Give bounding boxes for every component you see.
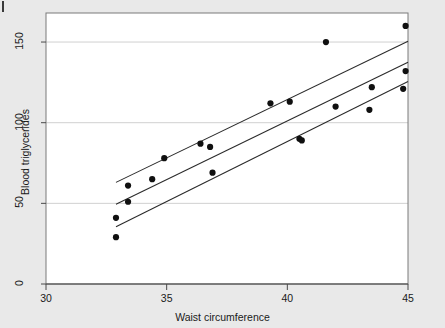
data-point-16 (369, 84, 375, 90)
data-point-15 (366, 107, 372, 113)
data-point-18 (402, 68, 408, 74)
x-tick-label-35: 35 (147, 292, 187, 304)
data-point-4 (149, 176, 155, 182)
x-tick-label-45: 45 (388, 292, 428, 304)
x-axis-title: Waist circumference (0, 311, 445, 323)
data-point-19 (402, 23, 408, 29)
data-point-5 (161, 155, 167, 161)
data-point-8 (209, 170, 215, 176)
y-axis-title: Blood triglycerides (19, 102, 31, 202)
data-point-12 (299, 137, 305, 143)
data-point-14 (333, 103, 339, 109)
data-point-9 (267, 100, 273, 106)
data-point-0 (113, 234, 119, 240)
data-point-2 (125, 199, 131, 205)
data-point-7 (207, 144, 213, 150)
data-point-17 (400, 86, 406, 92)
data-point-13 (323, 39, 329, 45)
plot-area-background (46, 13, 408, 284)
data-point-10 (287, 99, 293, 105)
data-point-3 (125, 183, 131, 189)
scatter-plot-figure: 0 50 100 150 30 35 40 45 Blood triglycer… (0, 0, 445, 328)
data-point-6 (197, 141, 203, 147)
x-tick-label-40: 40 (267, 292, 307, 304)
data-point-1 (113, 215, 119, 221)
plot-canvas (0, 0, 445, 328)
x-tick-label-30: 30 (26, 292, 66, 304)
y-tick-label-150: 150 (13, 22, 25, 60)
y-tick-label-0: 0 (13, 264, 25, 302)
